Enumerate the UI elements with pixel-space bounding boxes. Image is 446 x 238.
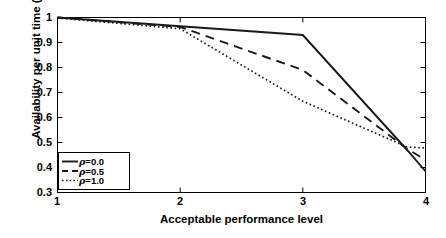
x-axis-title: Acceptable performance level (57, 214, 426, 226)
y-axis-title: Availability per unit time (ηF(T*)) (30, 0, 42, 139)
x-tick-label-2: 2 (170, 196, 190, 207)
x-tick-label-3: 3 (293, 196, 313, 207)
legend-value-2: =1.0 (85, 175, 104, 186)
x-tick-label-4: 4 (416, 196, 436, 207)
y-tick-label-0-4: 0.4 (20, 162, 52, 173)
chart-figure: 1 0.9 0.8 0.7 0.6 0.5 0.4 0.3 1 2 3 4 Ac… (0, 0, 446, 238)
x-tick-label-1: 1 (47, 196, 67, 207)
y-axis-title-wrapper: Availability per unit time (ηF(T*)) (26, 0, 45, 144)
y-axis-title-prefix: Availability per unit time ( (30, 0, 42, 139)
legend-label-rho-1-0: ρ=1.0 (79, 176, 104, 186)
